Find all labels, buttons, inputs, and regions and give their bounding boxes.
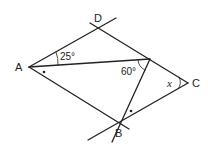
- equal-angle-dot-A: [43, 71, 46, 74]
- label-A: A: [15, 61, 23, 73]
- angle-label-25: 25°: [60, 51, 75, 62]
- line-AB: [29, 67, 129, 129]
- geometry-diagram: A D C B 25° 60° x: [0, 0, 213, 149]
- label-D: D: [94, 12, 102, 24]
- label-B: B: [115, 127, 122, 139]
- line-DC: [90, 23, 188, 83]
- label-C: C: [192, 77, 200, 89]
- equal-angle-dot-B: [130, 110, 133, 113]
- angle-arc-60: [138, 60, 145, 70]
- angle-label-x: x: [166, 77, 172, 89]
- angle-label-60: 60°: [121, 66, 136, 77]
- angle-arc-25: [56, 52, 58, 65]
- line-CB: [88, 83, 188, 140]
